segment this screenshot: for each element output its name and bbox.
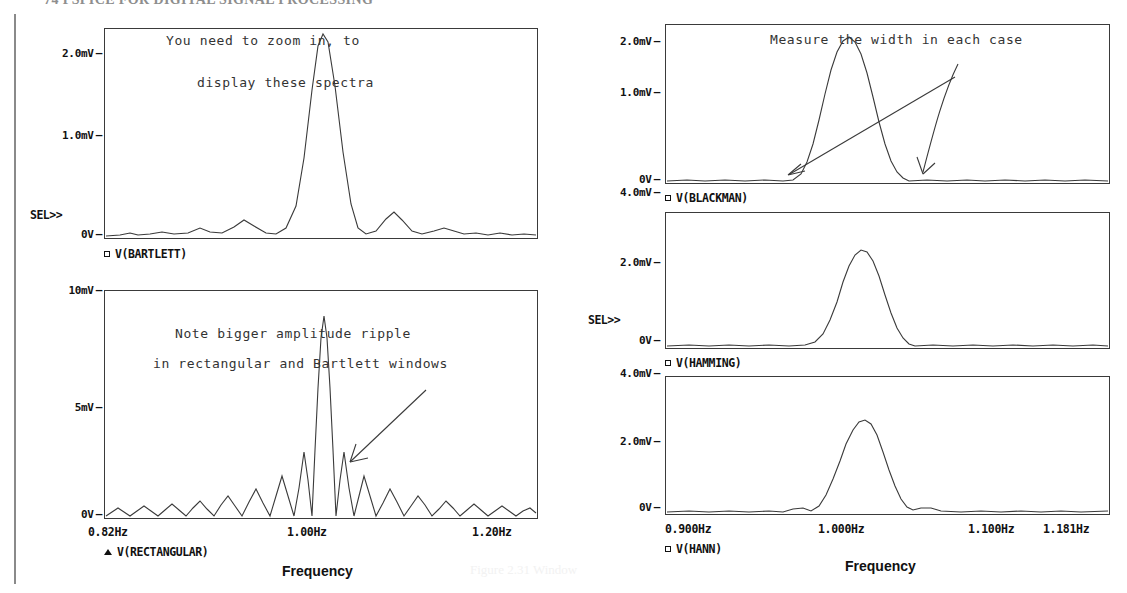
plot-rectangular-ytick-2: 10mV– (24, 284, 102, 297)
page-root: 74 PSPICE FOR DIGITAL SIGNAL PROCESSING … (0, 0, 1127, 593)
square-marker-icon (665, 546, 671, 552)
plot-rectangular-ytick-0: 0V– (24, 508, 102, 521)
plot-blackman-ytick-1: 1.0mV– (582, 86, 660, 99)
plot-blackman-legend[interactable]: V(BLACKMAN) (665, 191, 748, 205)
left-xtick-2: 1.20Hz (472, 525, 512, 539)
plot-rectangular-legend-label: V(RECTANGULAR) (117, 545, 208, 559)
plot-hamming-ytick-2: 4.0mV– (582, 186, 660, 199)
plot-blackman-legend-label: V(BLACKMAN) (676, 191, 748, 205)
plot-bartlett-legend[interactable]: V(BARTLETT) (104, 247, 187, 261)
plot-blackman-ytick-0: 0V– (582, 173, 660, 186)
plot-bartlett-ytick-0: 0V– (24, 228, 102, 241)
plot-rectangular-legend[interactable]: V(RECTANGULAR) (104, 545, 208, 559)
plot-hamming-legend-label: V(HAMMING) (676, 356, 741, 370)
right-axis-title: Frequency (845, 558, 916, 574)
page-binding-rule (14, 14, 16, 584)
plot-blackman-annotation-arrows (665, 24, 1110, 184)
plot-blackman-ytick-2: 2.0mV– (582, 35, 660, 48)
square-marker-icon (104, 251, 110, 257)
plot-rectangular-annotation-arrow (104, 290, 538, 519)
square-marker-icon (665, 360, 671, 366)
plot-hamming-legend[interactable]: V(HAMMING) (665, 356, 741, 370)
plot-rectangular-ytick-1: 5mV– (24, 401, 102, 414)
right-xtick-3: 1.181Hz (1043, 522, 1089, 536)
plot-hann-ytick-2: 4.0mV– (582, 367, 660, 380)
plot-hamming-ytick-0: 0V– (582, 334, 660, 347)
left-axis-title: Frequency (282, 563, 353, 579)
triangle-marker-icon (104, 549, 112, 555)
plot-bartlett-legend-label: V(BARTLETT) (115, 247, 187, 261)
plot-hamming-ytick-1: 2.0mV– (582, 256, 660, 269)
right-xtick-1: 1.000Hz (818, 522, 864, 536)
plot-bartlett-sel-marker[interactable]: SEL>> (30, 208, 62, 222)
plot-hann-legend-label: V(HANN) (676, 542, 722, 556)
plot-hamming-curve (665, 212, 1110, 349)
right-xtick-0: 0.900Hz (665, 522, 711, 536)
plot-hann-ytick-1: 2.0mV– (582, 435, 660, 448)
page-faint-caption: Figure 2.31 Window (470, 562, 577, 578)
left-xtick-1: 1.00Hz (287, 525, 327, 539)
square-marker-icon (665, 195, 671, 201)
plot-hann-legend[interactable]: V(HANN) (665, 542, 722, 556)
plot-hamming-sel-marker[interactable]: SEL>> (588, 313, 620, 327)
plot-bartlett-curve (104, 28, 538, 239)
plot-hann-ytick-0: 0V– (582, 501, 660, 514)
plot-bartlett-ytick-1: 1.0mV– (24, 129, 102, 142)
left-xtick-0: 0.82Hz (88, 525, 128, 539)
plot-bartlett-ytick-2: 2.0mV– (24, 47, 102, 60)
right-xtick-2: 1.100Hz (968, 522, 1014, 536)
plot-hann-curve (665, 376, 1110, 515)
page-header: 74 PSPICE FOR DIGITAL SIGNAL PROCESSING (44, 0, 373, 8)
